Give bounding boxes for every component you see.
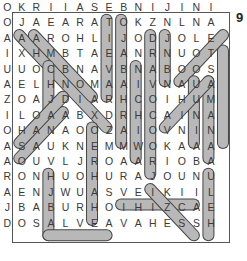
grid-cell[interactable]: V — [116, 185, 131, 200]
grid-cell[interactable]: O — [15, 216, 30, 231]
grid-cell[interactable]: E — [44, 15, 59, 30]
grid-cell[interactable]: N — [73, 62, 88, 77]
grid-cell[interactable]: O — [0, 123, 15, 138]
grid-cell[interactable]: D — [102, 108, 117, 123]
grid-cell[interactable]: H — [73, 31, 88, 46]
grid-cell[interactable]: T — [102, 15, 117, 30]
grid-cell[interactable]: T — [73, 46, 88, 61]
grid-cell[interactable]: R — [0, 169, 15, 184]
grid-cell[interactable]: U — [189, 92, 204, 107]
grid-cell[interactable]: N — [160, 15, 175, 30]
grid-cell[interactable]: O — [102, 154, 117, 169]
grid-cell[interactable]: I — [146, 200, 161, 215]
grid-cell[interactable]: N — [131, 62, 146, 77]
grid-cell[interactable]: A — [116, 46, 131, 61]
grid-cell[interactable]: H — [131, 108, 146, 123]
grid-cell[interactable]: K — [131, 15, 146, 30]
grid-cell[interactable]: A — [116, 77, 131, 92]
grid-cell[interactable]: O — [87, 123, 102, 138]
grid-cell[interactable]: L — [58, 154, 73, 169]
grid-cell[interactable]: O — [175, 154, 190, 169]
grid-cell[interactable]: O — [73, 77, 88, 92]
grid-cell[interactable]: A — [131, 154, 146, 169]
grid-cell[interactable]: L — [204, 185, 219, 200]
grid-cell[interactable]: H — [131, 200, 146, 215]
grid-cell[interactable]: I — [116, 200, 131, 215]
grid-cell[interactable]: A — [131, 169, 146, 184]
grid-cell[interactable]: B — [160, 62, 175, 77]
grid-cell[interactable]: H — [87, 200, 102, 215]
grid-cell[interactable]: A — [102, 77, 117, 92]
grid-cell[interactable]: K — [15, 0, 30, 15]
grid-cell[interactable]: I — [160, 92, 175, 107]
grid-cell[interactable]: R — [87, 154, 102, 169]
grid-cell[interactable]: L — [29, 77, 44, 92]
grid-cell[interactable]: J — [160, 31, 175, 46]
grid-cell[interactable]: A — [15, 31, 30, 46]
grid-cell[interactable]: K — [160, 185, 175, 200]
grid-cell[interactable]: I — [73, 92, 88, 107]
grid-cell[interactable]: O — [58, 31, 73, 46]
grid-cell[interactable]: C — [44, 62, 59, 77]
grid-cell[interactable]: V — [73, 216, 88, 231]
grid-cell[interactable]: C — [146, 108, 161, 123]
grid-cell[interactable]: A — [73, 0, 88, 15]
grid-cell[interactable]: I — [175, 0, 190, 15]
grid-cell[interactable]: L — [175, 15, 190, 30]
grid-cell[interactable]: U — [175, 169, 190, 184]
grid-cell[interactable]: R — [73, 200, 88, 215]
grid-cell[interactable]: E — [102, 46, 117, 61]
grid-cell[interactable]: U — [175, 46, 190, 61]
grid-cell[interactable]: A — [58, 123, 73, 138]
grid-cell[interactable]: E — [87, 139, 102, 154]
grid-cell[interactable]: E — [131, 185, 146, 200]
grid-cell[interactable]: M — [44, 46, 59, 61]
grid-cell[interactable]: N — [58, 77, 73, 92]
grid-cell[interactable]: A — [102, 216, 117, 231]
grid-cell[interactable]: A — [189, 200, 204, 215]
grid-cell[interactable]: N — [175, 123, 190, 138]
grid-cell[interactable]: A — [116, 123, 131, 138]
grid-cell[interactable]: S — [29, 216, 44, 231]
grid-cell[interactable]: A — [204, 139, 219, 154]
grid-cell[interactable]: A — [44, 108, 59, 123]
grid-cell[interactable]: O — [73, 169, 88, 184]
grid-cell[interactable]: H — [44, 77, 59, 92]
grid-cell[interactable]: W — [131, 139, 146, 154]
grid-cell[interactable]: C — [175, 200, 190, 215]
grid-cell[interactable]: O — [160, 169, 175, 184]
grid-cell[interactable]: J — [73, 154, 88, 169]
grid-cell[interactable]: H — [146, 216, 161, 231]
grid-cell[interactable]: A — [87, 62, 102, 77]
grid-cell[interactable]: V — [102, 62, 117, 77]
grid-cell[interactable]: L — [189, 31, 204, 46]
grid-cell[interactable]: J — [0, 200, 15, 215]
grid-cell[interactable]: O — [175, 62, 190, 77]
grid-cell[interactable]: A — [29, 31, 44, 46]
grid-cell[interactable]: U — [58, 200, 73, 215]
grid-cell[interactable]: A — [204, 154, 219, 169]
grid-cell[interactable]: A — [58, 108, 73, 123]
grid-cell[interactable]: O — [15, 154, 30, 169]
grid-cell[interactable]: A — [87, 92, 102, 107]
grid-cell[interactable]: E — [160, 216, 175, 231]
grid-cell[interactable]: D — [0, 216, 15, 231]
grid-cell[interactable]: B — [58, 46, 73, 61]
grid-cell[interactable]: L — [15, 108, 30, 123]
grid-cell[interactable]: S — [175, 216, 190, 231]
grid-cell[interactable]: N — [160, 77, 175, 92]
grid-cell[interactable]: E — [204, 200, 219, 215]
grid-cell[interactable]: A — [58, 15, 73, 30]
grid-cell[interactable]: N — [29, 169, 44, 184]
grid-cell[interactable]: I — [189, 123, 204, 138]
grid-cell[interactable]: S — [87, 0, 102, 15]
grid-cell[interactable]: J — [160, 0, 175, 15]
grid-cell[interactable]: U — [44, 139, 59, 154]
grid-cell[interactable]: A — [146, 62, 161, 77]
grid-cell[interactable]: J — [44, 92, 59, 107]
grid-cell[interactable]: H — [87, 169, 102, 184]
grid-cell[interactable]: O — [102, 200, 117, 215]
grid-cell[interactable]: V — [146, 77, 161, 92]
grid-cell[interactable]: E — [15, 77, 30, 92]
grid-cell[interactable]: M — [87, 77, 102, 92]
